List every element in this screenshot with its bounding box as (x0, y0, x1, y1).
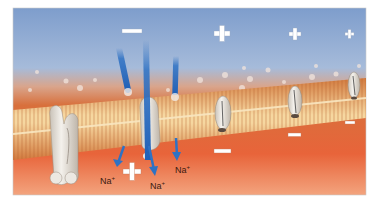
minus-sign-icon (122, 29, 142, 33)
minus-sign-icon (288, 133, 301, 137)
sodium-ion-label: Na+ (150, 181, 165, 191)
sodium-ion-label: Na+ (100, 176, 115, 186)
minus-sign-icon (214, 149, 231, 153)
sodium-ion-label: Na+ (175, 165, 190, 175)
diagram-canvas (0, 0, 378, 209)
membrane-diagram: Na+ Na+ Na+ (0, 0, 378, 209)
minus-sign-icon (345, 121, 355, 124)
